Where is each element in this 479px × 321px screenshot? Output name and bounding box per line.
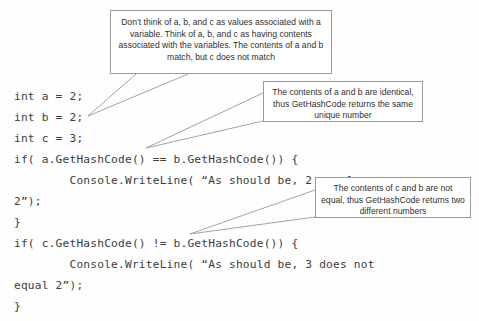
code-line: Console.WriteLine( “As should be, 3 does… [14,254,344,275]
code-line: equal 2”); [14,275,344,296]
code-line: } [14,296,344,317]
callout-notequal: The contents of c and b are not equal, t… [315,177,471,218]
code-line: } [14,212,344,233]
figure-page: int a = 2; int b = 2; int c = 3; if( a.G… [0,0,479,321]
callout-variables: Don’t think of a, b, and c as values ass… [110,10,332,74]
code-line: if( c.GetHashCode() != b.GetHashCode()) … [14,233,344,254]
code-line: int c = 3; [14,128,344,149]
code-line: Console.WriteLine( “As should be, 2 equa… [14,170,344,191]
code-line: 2”); [14,191,344,212]
code-line: if( a.GetHashCode() == b.GetHashCode()) … [14,149,344,170]
callout-identical: The contents of a and b are identical, t… [263,81,423,122]
